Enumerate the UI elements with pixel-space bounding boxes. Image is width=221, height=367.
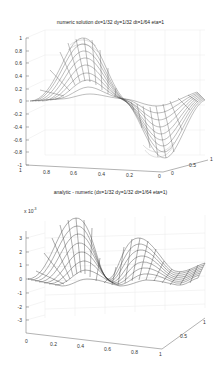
x-tick: 0.2 — [126, 172, 133, 178]
x-tick: 0 — [158, 173, 161, 179]
y-tick: 0.5 — [189, 162, 196, 168]
z-tick: 0 — [6, 276, 22, 282]
surface-mesh — [0, 0, 221, 183]
error-plot: analytic - numeric (dx=1/32 dy=1/32 dt=1… — [0, 183, 221, 367]
x-tick: 0.4 — [77, 343, 84, 349]
z-tick: 0 — [6, 98, 22, 104]
z-tick: 3 — [6, 235, 22, 241]
x-tick: 0.4 — [98, 171, 105, 177]
y-tick: 0 — [171, 170, 174, 176]
x-tick: 0.6 — [70, 170, 77, 176]
x-tick: 0.6 — [104, 346, 111, 352]
y-tick: 1 — [203, 319, 206, 325]
x-tick: 1 — [19, 167, 22, 173]
z-tick: -0.4 — [6, 124, 22, 130]
y-tick: 1 — [210, 156, 213, 162]
z-tick: 0.2 — [6, 86, 22, 92]
z-tick: 0.8 — [6, 48, 22, 54]
x-tick: 0.2 — [50, 341, 57, 347]
x-tick: 0 — [25, 338, 28, 344]
z-tick: -0.8 — [6, 149, 22, 155]
surface-mesh — [0, 183, 221, 367]
numeric-solution-plot: numeric solution dx=1/32 dy=1/32 dt=1/64… — [0, 0, 221, 183]
z-tick: -0.6 — [6, 137, 22, 143]
y-tick: 0.5 — [180, 333, 187, 339]
z-tick: 1 — [6, 262, 22, 268]
z-tick: -0.2 — [6, 111, 22, 117]
x-tick: 0.8 — [43, 169, 50, 175]
z-tick: 0.6 — [6, 60, 22, 66]
z-tick: 0.4 — [6, 73, 22, 79]
z-tick: -1 — [6, 290, 22, 296]
z-tick: 2 — [6, 249, 22, 255]
x-tick: 1 — [159, 351, 162, 357]
z-tick: 1 — [6, 35, 22, 41]
z-tick: -3 — [6, 317, 22, 323]
x-tick: 0.8 — [131, 349, 138, 355]
z-tick: -2 — [6, 304, 22, 310]
